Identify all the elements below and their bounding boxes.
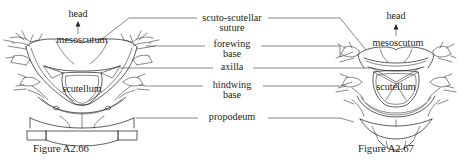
label-propodeum: propodeum: [209, 112, 255, 123]
label-hindwing-base: hindwing base: [213, 80, 252, 100]
label-mesoscutum-right: mesoscutum: [373, 38, 424, 49]
label-forewing-base: forewing base: [214, 39, 251, 59]
label-scuto-scutellar-suture-line2: suture: [202, 23, 261, 33]
label-head-right: head: [386, 11, 405, 22]
label-head-left: head: [68, 9, 87, 20]
figure-caption-right: Figure A2.67: [358, 143, 414, 154]
head-arrow-left: [76, 21, 81, 34]
label-mesoscutum-left: mesoscutum: [57, 35, 108, 46]
label-scutellum-left: scutellum: [62, 84, 102, 95]
label-axilla: axilla: [221, 62, 244, 73]
head-arrow-right: [394, 24, 399, 36]
label-scuto-scutellar-suture: scuto-scutellar suture: [202, 13, 261, 33]
label-hindwing-base-line2: base: [213, 90, 252, 100]
figure-caption-left: Figure A2.66: [33, 143, 89, 154]
anatomy-figure: head mesoscutum scutellum head mesoscutu…: [0, 0, 465, 162]
leader-lines-right: [253, 18, 372, 122]
label-scutellum-right: scutellum: [376, 82, 416, 93]
label-forewing-base-line2: base: [214, 49, 251, 59]
